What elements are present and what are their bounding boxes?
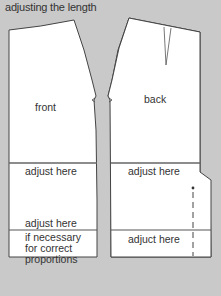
back-label: back <box>144 94 166 105</box>
back-adjust-label-2: adjuct here <box>128 234 180 245</box>
front-adjust-label-2: adjust here <box>25 218 77 229</box>
front-note-line-3: proportions <box>25 254 78 265</box>
front-label: front <box>35 102 56 113</box>
back-adjust-label-1: adjust here <box>128 166 180 177</box>
front-adjust-label-1: adjust here <box>25 166 77 177</box>
